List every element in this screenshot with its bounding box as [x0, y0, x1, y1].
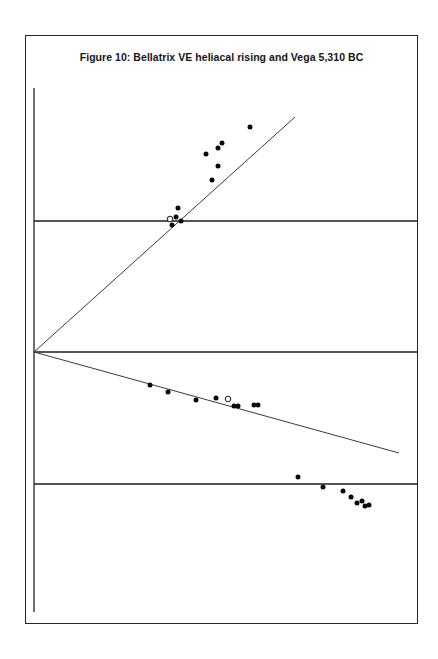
page-title: Figure 10: Bellatrix VE heliacal rising …: [25, 51, 418, 63]
figure-frame: [25, 35, 418, 624]
figure-root: Figure 10: Bellatrix VE heliacal rising …: [0, 0, 438, 659]
